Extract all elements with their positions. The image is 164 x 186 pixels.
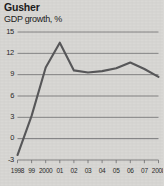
y-axis-tick-label: 6 xyxy=(0,92,14,100)
line-chart-svg xyxy=(0,0,163,186)
y-axis-tick-label: -3 xyxy=(0,156,14,164)
y-axis-tick-label: 9 xyxy=(0,70,14,78)
x-axis-tick-label: 2008 xyxy=(145,167,164,175)
gridlines xyxy=(18,32,159,160)
y-axis-tick-label: 15 xyxy=(0,28,14,36)
y-axis-tick-label: 12 xyxy=(0,49,14,57)
chart-figure: Gusher GDP growth, % 15129630-3 19989920… xyxy=(0,0,163,186)
y-axis-tick-label: 0 xyxy=(0,134,14,142)
plot-area: 15129630-3 1998992000010203040506072008 xyxy=(0,0,163,186)
gdp-growth-line xyxy=(18,43,159,155)
x-axis-ticks xyxy=(18,160,159,163)
y-axis-tick-label: 3 xyxy=(0,113,14,121)
